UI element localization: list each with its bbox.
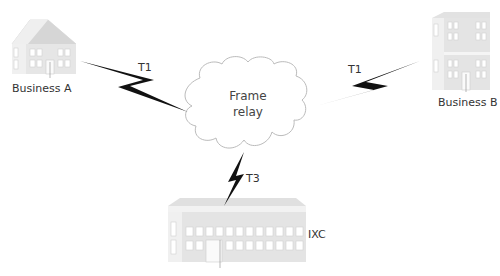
link-label-t3: T3 bbox=[246, 172, 260, 185]
business-b-building-icon bbox=[432, 12, 490, 92]
link-label-t1-b: T1 bbox=[348, 63, 362, 76]
business-b-label: Business B bbox=[438, 96, 498, 109]
network-diagram bbox=[0, 0, 500, 276]
business-a-label: Business A bbox=[12, 82, 72, 95]
link-label-t1-a: T1 bbox=[138, 61, 152, 74]
ixc-label: IXC bbox=[308, 228, 326, 241]
t3-link-bolt-icon bbox=[224, 152, 244, 206]
cloud-label-line2: relay bbox=[220, 104, 276, 120]
cloud-label-line1: Frame bbox=[220, 88, 276, 104]
cloud-label: Frame relay bbox=[220, 88, 276, 120]
t1-link-bolt-a-icon bbox=[80, 61, 188, 112]
business-a-building-icon bbox=[12, 20, 76, 78]
t1-link-bolt-b-icon bbox=[316, 61, 420, 106]
ixc-building-icon bbox=[168, 198, 306, 268]
